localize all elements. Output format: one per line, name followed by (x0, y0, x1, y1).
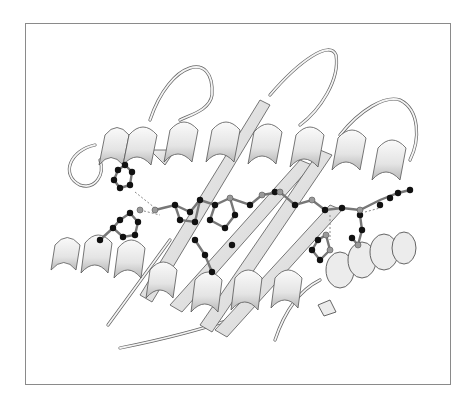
helix-bottom-left (51, 235, 177, 298)
helix-bottom-right (318, 232, 416, 316)
protein-structure-diagram (0, 0, 475, 412)
